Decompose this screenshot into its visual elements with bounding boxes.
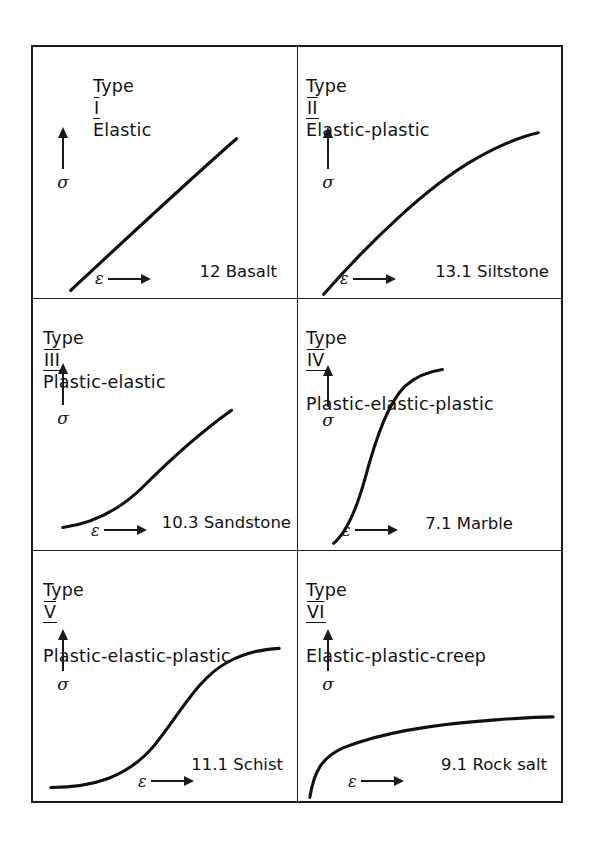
up-arrow-icon <box>327 373 329 407</box>
panel-type-iv: Type IV Plastic-elastic-plastic σ ε 7.1 … <box>297 298 561 549</box>
panel-type-i: Type I Elastic σ ε 12 Basalt <box>33 47 297 298</box>
right-arrow-icon <box>355 529 391 531</box>
strain-axis-type-ii: ε <box>340 269 389 288</box>
stress-axis-type-i: σ <box>50 135 76 192</box>
up-arrow-icon <box>62 371 64 405</box>
curve-path-type-iii <box>63 411 232 528</box>
strain-symbol: ε <box>340 269 349 288</box>
strain-symbol: ε <box>342 521 351 540</box>
right-arrow-icon <box>353 278 389 280</box>
rock-label-type-ii: 13.1 Siltstone <box>435 262 549 281</box>
strain-symbol: ε <box>91 521 100 540</box>
strain-axis-type-i: ε <box>95 269 144 288</box>
stress-axis-type-iii: σ <box>50 371 76 428</box>
rock-label-type-iii: 10.3 Sandstone <box>162 513 291 532</box>
strain-axis-type-iii: ε <box>91 521 140 540</box>
stress-axis-type-vi: σ <box>315 637 341 694</box>
panel-type-vi: Type VI Elastic-plastic-creep σ ε 9.1 Ro… <box>297 550 561 801</box>
strain-symbol: ε <box>95 269 104 288</box>
panel-type-iii: Type III Plastic-elastic σ ε 10.3 Sandst… <box>33 298 297 549</box>
strain-axis-type-iv: ε <box>342 521 391 540</box>
stress-axis-type-v: σ <box>50 637 76 694</box>
right-arrow-icon <box>108 278 144 280</box>
right-arrow-icon <box>151 780 187 782</box>
stress-symbol: σ <box>50 172 76 192</box>
up-arrow-icon <box>327 637 329 671</box>
stress-strain-curve-figure: Type I Elastic σ ε 12 Basalt Type II Ela… <box>31 45 563 803</box>
panel-type-ii: Type II Elastic-plastic σ ε 13.1 Siltsto… <box>297 47 561 298</box>
up-arrow-icon <box>62 135 64 169</box>
strain-axis-type-vi: ε <box>348 772 397 791</box>
stress-symbol: σ <box>315 410 341 430</box>
stress-symbol: σ <box>315 172 341 192</box>
strain-symbol: ε <box>348 772 357 791</box>
right-arrow-icon <box>104 529 140 531</box>
right-arrow-icon <box>361 780 397 782</box>
up-arrow-icon <box>327 135 329 169</box>
stress-symbol: σ <box>50 408 76 428</box>
strain-symbol: ε <box>138 772 147 791</box>
stress-symbol: σ <box>315 674 341 694</box>
strain-axis-type-v: ε <box>138 772 187 791</box>
panel-type-v: Type V Plastic-elastic-plastic σ ε 11.1 … <box>33 550 297 801</box>
stress-axis-type-ii: σ <box>315 135 341 192</box>
rock-label-type-iv: 7.1 Marble <box>425 514 513 533</box>
rock-label-type-v: 11.1 Schist <box>191 755 283 774</box>
up-arrow-icon <box>62 637 64 671</box>
rock-label-type-i: 12 Basalt <box>200 262 277 281</box>
stress-symbol: σ <box>50 674 76 694</box>
rock-label-type-vi: 9.1 Rock salt <box>441 755 547 774</box>
stress-axis-type-iv: σ <box>315 373 341 430</box>
